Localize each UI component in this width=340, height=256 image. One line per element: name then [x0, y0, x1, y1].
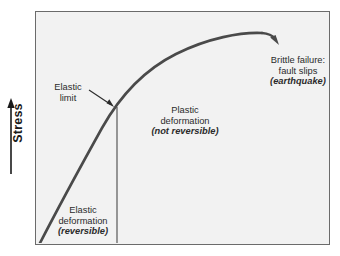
annotation-elastic-limit-line2: limit — [44, 93, 92, 104]
annotation-brittle-failure-line2: fault slips — [258, 66, 338, 77]
stress-strain-diagram: Stress — [0, 0, 340, 256]
annotation-plastic-deformation-line1: Plastic — [144, 105, 226, 116]
elastic-limit-pointer-arrowhead — [107, 99, 115, 107]
y-axis-label: Stress — [11, 91, 25, 155]
annotation-elastic-deformation: Elastic deformation (reversible) — [50, 205, 116, 237]
annotation-brittle-failure: Brittle failure: fault slips (earthquake… — [258, 55, 338, 87]
annotation-elastic-deformation-line1: Elastic — [50, 205, 116, 216]
annotation-brittle-failure-emphasis: (earthquake) — [258, 76, 338, 87]
elastic-limit-pointer-line — [89, 90, 110, 104]
annotation-elastic-limit: Elastic limit — [44, 82, 92, 103]
y-axis-label-group: Stress — [0, 96, 34, 176]
annotation-elastic-deformation-line2: deformation — [50, 216, 116, 227]
annotation-plastic-deformation-line2: deformation — [144, 116, 226, 127]
annotation-elastic-limit-line1: Elastic — [44, 82, 92, 93]
annotation-plastic-deformation-emphasis: (not reversible) — [144, 126, 226, 137]
annotation-brittle-failure-line1: Brittle failure: — [258, 55, 338, 66]
annotation-plastic-deformation: Plastic deformation (not reversible) — [144, 105, 226, 137]
annotation-elastic-deformation-emphasis: (reversible) — [50, 226, 116, 237]
